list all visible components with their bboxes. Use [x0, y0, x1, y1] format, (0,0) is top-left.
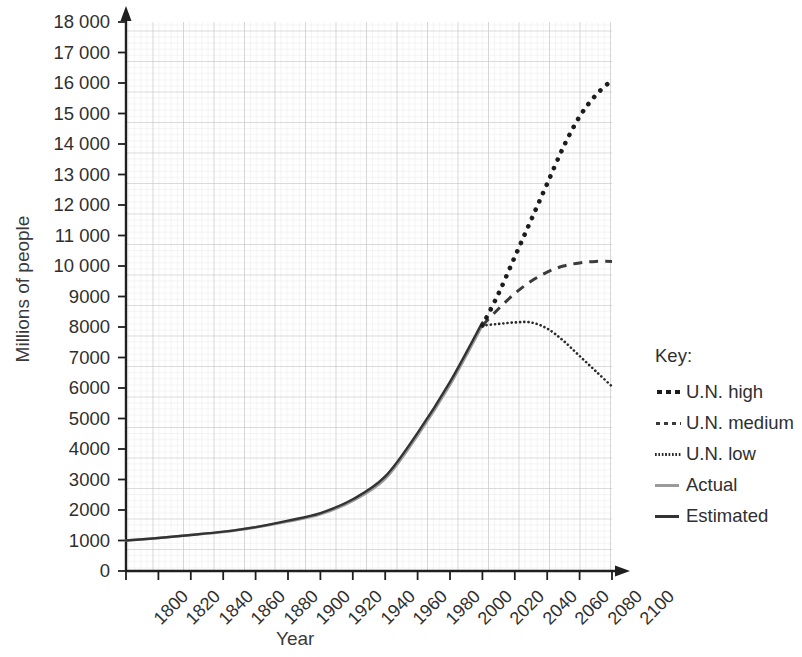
actual-line-icon [655, 478, 681, 492]
y-tick-label: 11 000 [55, 225, 110, 247]
plot-area [0, 0, 802, 657]
y-axis-title: Millions of people [12, 179, 34, 399]
y-tick-label: 16 000 [53, 72, 110, 94]
legend-item-actual: Actual [655, 469, 802, 500]
y-tick-label: 12 000 [53, 194, 110, 216]
y-tick-label: 8000 [69, 316, 110, 338]
y-tick-label: 18 000 [53, 11, 110, 33]
x-axis-title: Year [276, 628, 314, 650]
y-tick-label: 9000 [69, 286, 110, 308]
un-high-line-icon [655, 385, 681, 399]
y-tick-label: 2000 [69, 499, 110, 521]
un-medium-line-icon [655, 416, 681, 430]
legend-item-un-medium: U.N. medium [655, 407, 802, 438]
y-tick-label: 3000 [69, 469, 110, 491]
legend-label-estimated: Estimated [686, 505, 768, 527]
legend-label-un-low: U.N. low [686, 443, 756, 465]
legend-item-estimated: Estimated [655, 500, 802, 531]
y-tick-label: 17 000 [53, 42, 110, 64]
legend-title: Key: [655, 345, 802, 367]
y-axis-arrow [121, 6, 132, 21]
legend-label-un-high: U.N. high [686, 381, 763, 403]
population-projection-chart: 010002000300040005000600070008000900010 … [0, 0, 802, 657]
y-tick-label: 7000 [69, 347, 110, 369]
y-tick-label: 5000 [69, 408, 110, 430]
x-axis-arrow [615, 566, 630, 577]
legend-item-un-high: U.N. high [655, 376, 802, 407]
x-tick-marks [126, 571, 612, 580]
y-tick-label: 10 000 [53, 255, 110, 277]
y-tick-label: 13 000 [53, 164, 110, 186]
y-tick-label: 0 [100, 560, 110, 582]
legend-label-actual: Actual [686, 474, 737, 496]
legend-label-un-medium: U.N. medium [686, 412, 794, 434]
y-tick-label: 14 000 [53, 133, 110, 155]
legend-item-un-low: U.N. low [655, 438, 802, 469]
un-low-line-icon [655, 447, 681, 461]
y-tick-label: 6000 [69, 377, 110, 399]
y-tick-label: 15 000 [53, 103, 110, 125]
legend: Key: U.N. high U.N. medium U.N. low Actu… [655, 345, 802, 531]
estimated-line-icon [655, 509, 681, 523]
y-tick-label: 4000 [69, 438, 110, 460]
y-tick-label: 1000 [69, 530, 110, 552]
